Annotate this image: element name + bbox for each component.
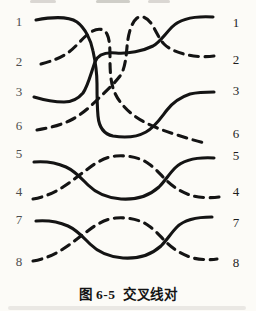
pin-label-left-3: 3 [12, 85, 26, 99]
wire-left6-to-right2 [37, 17, 214, 130]
pin-label-left-2: 2 [12, 55, 26, 69]
pin-label-right-2: 2 [229, 53, 243, 67]
pin-label-right-5: 5 [229, 149, 243, 163]
wire-pair-4 [33, 156, 219, 199]
pin-label-right-1: 1 [229, 16, 243, 30]
pin-label-right-4: 4 [229, 185, 243, 199]
pin-label-right-7: 7 [229, 216, 243, 230]
pin-label-right-3: 3 [229, 84, 243, 98]
wiring-diagram-canvas [0, 0, 256, 311]
figure-crossed-pairs: 1 2 3 6 5 4 7 8 1 2 3 6 5 4 7 8 图 6-5 交叉… [0, 0, 256, 311]
wire-left2-to-right6 [41, 29, 205, 143]
pin-label-left-6: 6 [12, 119, 26, 133]
pin-label-right-6: 6 [229, 127, 243, 141]
pin-label-left-7: 7 [12, 213, 26, 227]
pin-label-left-8: 8 [12, 255, 26, 269]
wire-pair-7 [36, 217, 212, 258]
wire-left3-to-right1 [34, 17, 213, 102]
figure-caption: 图 6-5 交叉线对 [0, 283, 256, 303]
pin-label-right-8: 8 [229, 256, 243, 270]
pin-label-left-4: 4 [12, 185, 26, 199]
pin-label-left-5: 5 [12, 147, 26, 161]
wire-left1-to-right3 [36, 18, 214, 137]
pin-label-left-1: 1 [12, 15, 26, 29]
